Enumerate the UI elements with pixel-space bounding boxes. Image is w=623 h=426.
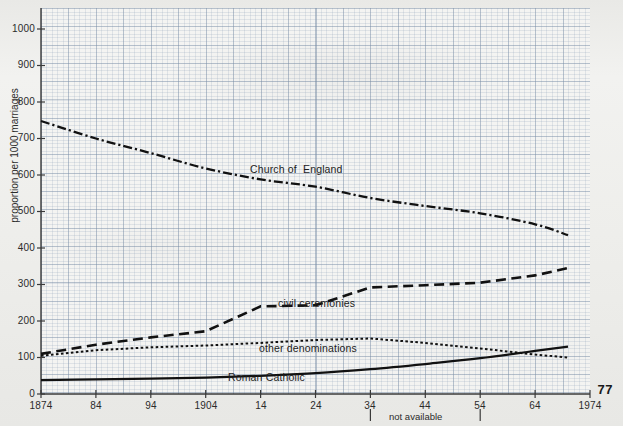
x-tick-label-1954: 54 — [462, 400, 498, 411]
x-tick-label-1884: 84 — [78, 400, 114, 411]
chart-svg — [0, 0, 623, 426]
x-tick-label-1964: 64 — [517, 400, 553, 411]
series-label-civil-ceremonies: civil ceremonies — [278, 297, 355, 309]
series-label-other-denominations: other denominations — [259, 342, 357, 354]
series-label-church-of-england: Church of England — [250, 163, 343, 175]
y-tick-label-100: 100 — [4, 351, 35, 362]
series-line-church-of-england — [41, 121, 568, 235]
chart-page: 0 100 200 300 400 500 600 700 800 900 10… — [0, 0, 623, 426]
y-tick-label-0: 0 — [4, 388, 35, 399]
x-tick-label-1934: 34 — [352, 400, 388, 411]
y-axis-title: proportion per 1000 marriages — [9, 46, 20, 266]
x-tick-label-1874: 1874 — [23, 400, 59, 411]
not-available-label: not available — [389, 411, 442, 422]
series-label-roman-catholic: Roman Catholic — [228, 371, 305, 383]
x-tick-label-1924: 24 — [298, 400, 334, 411]
x-tick-label-1944: 44 — [407, 400, 443, 411]
x-tick-label-1894: 94 — [133, 400, 169, 411]
page-number: 77 — [598, 382, 613, 397]
x-tick-label-1974: 1974 — [572, 400, 608, 411]
x-tick-label-1914: 14 — [243, 400, 279, 411]
y-tick-label-200: 200 — [4, 315, 35, 326]
y-tick-label-300: 300 — [4, 278, 35, 289]
x-tick-label-1904: 1904 — [188, 400, 224, 411]
y-tick-label-1000: 1000 — [0, 23, 35, 34]
